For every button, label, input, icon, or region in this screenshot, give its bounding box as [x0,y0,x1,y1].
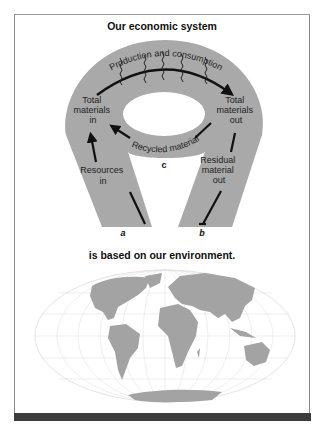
recycle-hole [123,92,205,136]
point-b-label: b [199,228,205,238]
world-map [35,270,295,402]
point-c-label: c [161,160,166,170]
point-a-label: a [120,228,125,238]
economic-system-diagram: Production and consumption Recycled mate… [0,0,324,429]
